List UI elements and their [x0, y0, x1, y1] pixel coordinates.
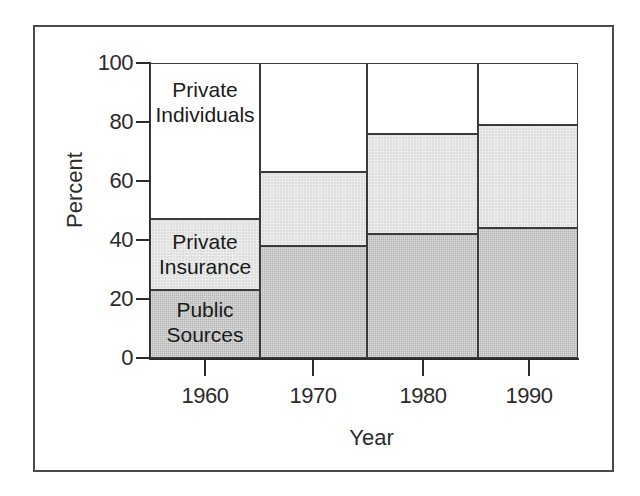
- segment-1990-private-individuals[interactable]: [478, 63, 578, 125]
- x-tick-mark-1980: [422, 360, 424, 376]
- y-tick-label-100: 100: [73, 50, 133, 76]
- segment-1970-public-sources[interactable]: [260, 246, 367, 358]
- segment-1960-private-insurance[interactable]: [150, 219, 260, 290]
- x-tick-label-1990: 1990: [479, 383, 579, 409]
- y-tick-mark-20: [136, 298, 149, 300]
- plot-area: Private Individuals Private Insurance Pu…: [150, 63, 578, 358]
- bar-1970[interactable]: [260, 63, 367, 358]
- segment-1970-private-individuals[interactable]: [260, 63, 367, 172]
- y-tick-label-60: 60: [73, 168, 133, 194]
- x-tick-label-1980: 1980: [373, 383, 473, 409]
- y-tick-label-40: 40: [73, 227, 133, 253]
- x-tick-mark-1970: [312, 360, 314, 376]
- y-tick-label-80: 80: [73, 109, 133, 135]
- segment-1960-private-individuals[interactable]: [150, 63, 260, 219]
- x-tick-label-1970: 1970: [263, 383, 363, 409]
- x-axis-line: [149, 358, 579, 360]
- bar-1960[interactable]: Private Individuals Private Insurance Pu…: [150, 63, 260, 358]
- bar-1990[interactable]: [478, 63, 578, 358]
- y-tick-mark-80: [136, 121, 149, 123]
- y-tick-mark-60: [136, 180, 149, 182]
- x-tick-mark-1960: [204, 360, 206, 376]
- y-tick-mark-100: [136, 62, 149, 64]
- x-tick-label-1960: 1960: [155, 383, 255, 409]
- segment-1990-private-insurance[interactable]: [478, 125, 578, 228]
- segment-1970-private-insurance[interactable]: [260, 172, 367, 246]
- x-tick-mark-1990: [528, 360, 530, 376]
- chart-figure-frame: Percent 100 80 60 40 20 0 Private Indivi…: [33, 25, 614, 472]
- segment-1980-private-individuals[interactable]: [367, 63, 478, 134]
- segment-1980-public-sources[interactable]: [367, 234, 478, 358]
- segment-1960-public-sources[interactable]: [150, 290, 260, 358]
- segment-1980-private-insurance[interactable]: [367, 134, 478, 234]
- y-tick-label-0: 0: [73, 345, 133, 371]
- y-tick-label-20: 20: [73, 286, 133, 312]
- y-tick-mark-0: [136, 357, 149, 359]
- segment-1990-public-sources[interactable]: [478, 228, 578, 358]
- x-axis-title: Year: [35, 425, 612, 451]
- bar-1980[interactable]: [367, 63, 478, 358]
- y-tick-mark-40: [136, 239, 149, 241]
